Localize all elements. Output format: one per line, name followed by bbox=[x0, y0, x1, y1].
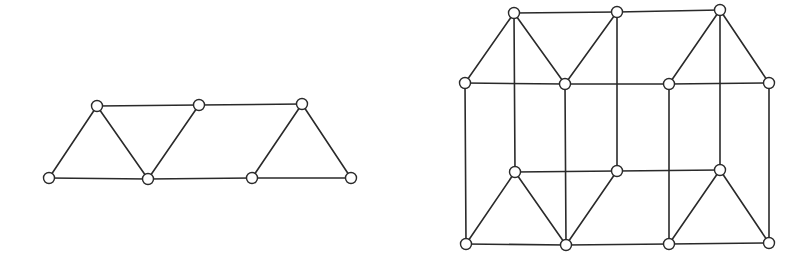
graph-edge bbox=[566, 171, 617, 245]
graph-vertex bbox=[297, 99, 308, 110]
right-graph bbox=[460, 5, 775, 251]
graph-vertex bbox=[509, 8, 520, 19]
graph-edge bbox=[669, 83, 769, 84]
graph-vertex bbox=[510, 167, 521, 178]
right-graph-edges bbox=[465, 10, 769, 245]
graph-vertex bbox=[664, 79, 675, 90]
graph-vertex bbox=[560, 79, 571, 90]
graph-vertex bbox=[143, 174, 154, 185]
graph-edge bbox=[49, 106, 97, 178]
graph-edge bbox=[148, 178, 252, 179]
graph-edge bbox=[669, 170, 720, 244]
graph-edge bbox=[565, 12, 617, 84]
graph-vertex bbox=[44, 173, 55, 184]
graph-edge bbox=[514, 12, 617, 13]
graph-vertex bbox=[764, 78, 775, 89]
graph-edge bbox=[97, 106, 148, 179]
graph-vertex bbox=[715, 165, 726, 176]
graph-vertex bbox=[92, 101, 103, 112]
graph-vertex bbox=[612, 166, 623, 177]
graph-vertex bbox=[612, 7, 623, 18]
graph-vertex bbox=[664, 239, 675, 250]
graph-vertex bbox=[247, 173, 258, 184]
graph-edge bbox=[148, 105, 199, 179]
graph-edge bbox=[466, 244, 566, 245]
graph-edge bbox=[302, 104, 351, 178]
graph-edge bbox=[49, 178, 148, 179]
graph-edge bbox=[669, 243, 769, 244]
graph-edge bbox=[617, 10, 720, 12]
graph-edge bbox=[565, 84, 566, 245]
graph-vertex bbox=[561, 240, 572, 251]
graph-edge bbox=[720, 10, 769, 83]
graph-vertex bbox=[715, 5, 726, 16]
graph-edge bbox=[669, 10, 720, 84]
graph-edge bbox=[566, 244, 669, 245]
graph-edge bbox=[514, 13, 565, 84]
graph-vertex bbox=[764, 238, 775, 249]
graph-edge bbox=[465, 83, 466, 244]
graph-edge bbox=[514, 13, 515, 172]
graph-figure bbox=[0, 0, 805, 263]
left-graph-edges bbox=[49, 104, 351, 179]
graph-vertex bbox=[460, 78, 471, 89]
left-graph bbox=[44, 99, 357, 185]
graph-edge bbox=[720, 170, 769, 243]
graph-edge bbox=[199, 104, 302, 105]
graph-edge bbox=[97, 105, 199, 106]
graph-edge bbox=[466, 172, 515, 244]
left-graph-nodes bbox=[44, 99, 357, 185]
graph-vertex bbox=[461, 239, 472, 250]
graph-edge bbox=[252, 104, 302, 178]
graph-edge bbox=[465, 13, 514, 83]
graph-edge bbox=[515, 172, 566, 245]
graph-vertex bbox=[346, 173, 357, 184]
graph-vertex bbox=[194, 100, 205, 111]
